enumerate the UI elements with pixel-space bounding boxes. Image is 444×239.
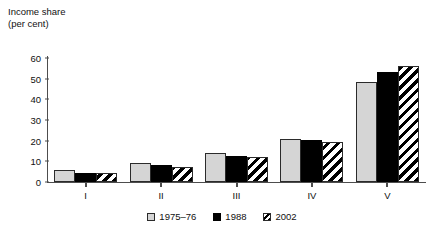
bar-group [350,58,425,182]
x-axis-tick-label: II [158,190,163,201]
x-axis-tick-label: IV [307,190,316,201]
bar-III-2002 [247,157,268,182]
plot-area: 0102030405060 [48,58,425,182]
bar-I-1975–76 [54,170,75,182]
x-axis-tick-mark [311,183,313,187]
bar-IV-2002 [322,142,343,182]
x-axis-tick-label: I [84,190,87,201]
legend-item[interactable]: 1975–76 [147,211,196,222]
bar-III-1988 [226,156,247,182]
bar-group [199,58,274,182]
bar-I-2002 [96,173,117,182]
y-axis-tick-label: 40 [30,94,48,105]
bar-chart: Income share(per cent) 0102030405060 197… [0,0,444,239]
x-axis-tick-label: V [384,190,390,201]
y-axis-tick-label: 0 [36,177,48,188]
legend-swatch-icon [263,213,271,221]
bar-IV-1988 [301,140,322,182]
y-axis-title: Income share(per cent) [8,6,66,30]
x-axis-tick-mark [85,183,87,187]
bar-II-1988 [151,165,172,182]
bar-V-1975–76 [356,82,377,182]
legend-label: 1975–76 [159,211,196,222]
y-axis-title-line-2: (per cent) [8,18,49,29]
bar-group [274,58,349,182]
legend-label: 2002 [275,211,296,222]
x-axis-tick-mark [236,183,238,187]
bar-V-1988 [377,72,398,182]
bar-I-1988 [75,173,96,182]
legend-swatch-icon [213,213,221,221]
x-axis-tick-label: III [233,190,241,201]
y-axis-tick-label: 50 [30,73,48,84]
y-axis-tick-label: 10 [30,156,48,167]
y-axis-tick-label: 60 [30,53,48,64]
bar-II-2002 [172,167,193,183]
chart-legend: 1975–7619882002 [0,211,444,222]
legend-item[interactable]: 2002 [263,211,296,222]
y-axis-tick-label: 20 [30,135,48,146]
legend-swatch-icon [147,213,155,221]
bar-group [123,58,198,182]
x-axis-tick-mark [160,183,162,187]
bar-IV-1975–76 [280,139,301,182]
y-axis-title-line-1: Income share [8,6,66,17]
bar-II-1975–76 [130,163,151,182]
x-axis-tick-mark [386,183,388,187]
y-axis-tick-label: 30 [30,115,48,126]
legend-label: 1988 [225,211,246,222]
bar-V-2002 [398,66,419,182]
legend-item[interactable]: 1988 [213,211,246,222]
bar-group [48,58,123,182]
bar-III-1975–76 [205,153,226,182]
